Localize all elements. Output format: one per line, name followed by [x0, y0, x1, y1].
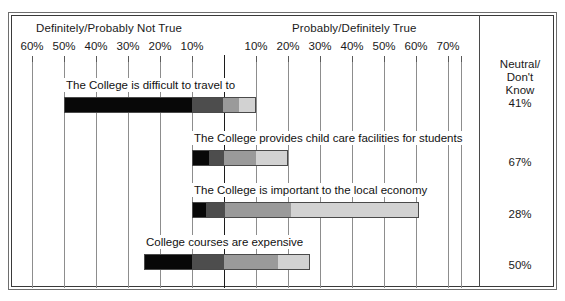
neutral-column-divider [479, 15, 480, 287]
chart-figure: Definitely/Probably Not True Probably/De… [0, 0, 565, 301]
axis-tick-label: 40% [84, 40, 107, 52]
bar-row: The College is important to the local ec… [11, 183, 479, 229]
bar-row: College courses are expensive [11, 235, 479, 281]
bar-segment[interactable] [65, 98, 192, 112]
bar-segment[interactable] [239, 98, 255, 112]
bar-segment[interactable] [224, 255, 278, 269]
axis-tick-label: 20% [276, 40, 299, 52]
axis-tick-label: 50% [52, 40, 75, 52]
neutral-value: 67% [483, 156, 557, 168]
bar-category-label: College courses are expensive [142, 235, 307, 249]
bar-segment[interactable] [193, 151, 209, 165]
bar-segment[interactable] [192, 98, 224, 112]
bar-segment[interactable] [206, 203, 225, 217]
neutral-value: 28% [483, 208, 557, 220]
bar-category-label: The College provides child care faciliti… [190, 131, 466, 145]
axis-tick-label: 60% [404, 40, 427, 52]
axis-tick-label: 10% [244, 40, 267, 52]
bar-segment[interactable] [225, 203, 292, 217]
bar-segment[interactable] [291, 203, 418, 217]
bar-row: The College is difficult to travel to [11, 78, 479, 124]
axis-tick-label: 50% [372, 40, 395, 52]
bar-segment[interactable] [193, 203, 206, 217]
axis-tick-label: 10% [180, 40, 203, 52]
bar-category-label: The College is difficult to travel to [62, 78, 239, 92]
bar-segment[interactable] [209, 151, 225, 165]
neutral-column-title-1: Neutral/ [483, 58, 557, 71]
neutral-value: 41% [483, 97, 557, 109]
bar-segment[interactable] [192, 255, 224, 269]
axis-tick-label: 30% [308, 40, 331, 52]
bar-segment[interactable] [224, 151, 255, 165]
axis-tick-label: 70% [436, 40, 459, 52]
neutral-column-title-2: Don't [483, 71, 557, 84]
bar-segment[interactable] [223, 98, 239, 112]
neutral-column-title-3: Know [483, 84, 557, 97]
stacked-bar[interactable] [64, 97, 256, 113]
stacked-bar[interactable] [192, 202, 419, 218]
bar-category-label: The College is important to the local ec… [190, 183, 431, 197]
axis-tick-label: 40% [340, 40, 363, 52]
bar-segment[interactable] [256, 151, 287, 165]
neutral-value: 50% [483, 259, 557, 271]
bar-row: The College provides child care faciliti… [11, 131, 479, 177]
plot-area: 60%50%40%30%20%10%10%20%30%40%50%60%70% … [11, 15, 479, 287]
stacked-bar[interactable] [144, 254, 310, 270]
bar-segment[interactable] [278, 255, 310, 269]
bar-segment[interactable] [145, 255, 192, 269]
axis-tick-label: 30% [116, 40, 139, 52]
stacked-bar[interactable] [192, 150, 288, 166]
axis-tick-label: 60% [20, 40, 43, 52]
axis-tick-label: 20% [148, 40, 171, 52]
